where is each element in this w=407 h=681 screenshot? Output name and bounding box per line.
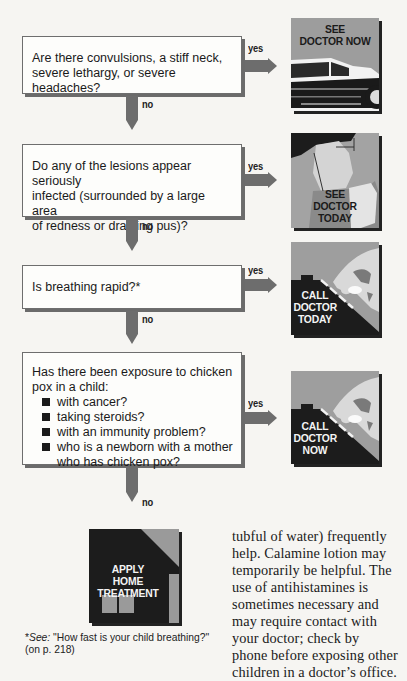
- outcome-3-label-line-3: TODAY: [293, 313, 336, 325]
- question-4-line-2: pox in a child:: [32, 380, 233, 395]
- body-text-column: tubful of water) frequently help. Calami…: [232, 528, 407, 681]
- question-2-line-1: Do any of the lesions appear seriously: [32, 159, 233, 189]
- question-box-1: Are there convulsions, a stiff neck, sev…: [22, 36, 242, 94]
- body-text-line: tubful of water) frequently: [232, 528, 407, 545]
- outcome-3-label-line-2: DOCTOR: [293, 301, 336, 313]
- bullet-4-line-2: who has chicken pox?: [57, 455, 233, 470]
- yes-label-4: yes: [248, 397, 263, 409]
- body-text-line: use of antihistamines is: [232, 579, 407, 596]
- question-box-3: Is breathing rapid?*: [22, 265, 242, 309]
- outcome-1-label-line-1: SEE: [295, 23, 374, 35]
- bullet-item: with an immunity problem?: [42, 425, 233, 440]
- question-4-bullet-list: with cancer? taking steroids? with an im…: [32, 395, 233, 470]
- body-text-line: may require contact with: [232, 613, 407, 630]
- outcome-apply-home-treatment: APPLY HOME TREATMENT: [89, 529, 179, 623]
- outcome-4-label-line-2: DOCTOR: [293, 432, 336, 444]
- outcome-2-label-line-1: SEE: [295, 188, 374, 200]
- final-label-line-2: HOME: [89, 575, 169, 587]
- outcome-1-label-line-2: DOCTOR NOW: [295, 35, 374, 47]
- question-box-4: Has there been exposure to chicken pox i…: [22, 352, 242, 465]
- body-text-line: children in a doctor’s office.: [232, 664, 407, 681]
- outcome-call-doctor-now: CALL DOCTOR NOW: [291, 371, 379, 464]
- footnote-see: See:: [29, 632, 50, 643]
- outcome-2-label-line-2: DOCTOR: [295, 200, 374, 212]
- outcome-call-doctor-today: CALL DOCTOR TODAY: [291, 242, 379, 335]
- outcome-4-label-line-1: CALL: [293, 420, 336, 432]
- outcome-2-label-line-3: TODAY: [295, 212, 374, 224]
- yes-label-1: yes: [248, 42, 263, 54]
- bullet-item: taking steroids?: [42, 410, 233, 425]
- question-box-2: Do any of the lesions appear seriously i…: [22, 144, 242, 217]
- bullet-item: who is a newborn with a mother who has c…: [42, 440, 233, 470]
- body-text-line: temporarily be helpful. The: [232, 562, 407, 579]
- question-2-line-2: infected (surrounded by a large area: [32, 189, 233, 219]
- question-1-line-2: severe lethargy, or severe headaches?: [32, 66, 233, 96]
- no-label-4: no: [142, 496, 153, 508]
- body-text-line: help. Calamine lotion may: [232, 545, 407, 562]
- body-text-line: sometimes necessary and: [232, 596, 407, 613]
- no-label-3: no: [142, 313, 153, 325]
- question-1-line-1: Are there convulsions, a stiff neck,: [32, 51, 233, 66]
- outcome-4-label-line-3: NOW: [293, 444, 336, 456]
- final-label-line-3: TREATMENT: [89, 587, 169, 599]
- footnote-text: "How fast is your child breathing?": [50, 632, 209, 643]
- outcome-see-doctor-now: SEE DOCTOR NOW: [291, 18, 379, 111]
- final-label-line-1: APPLY: [89, 563, 169, 575]
- yes-label-3: yes: [248, 264, 263, 276]
- outcome-see-doctor-today: SEE DOCTOR TODAY: [291, 133, 379, 228]
- question-3-line-1: Is breathing rapid?*: [32, 280, 233, 295]
- no-label-1: no: [142, 98, 153, 110]
- footnote: *See: "How fast is your child breathing?…: [25, 632, 209, 656]
- yes-label-2: yes: [248, 160, 263, 172]
- outcome-3-label-line-1: CALL: [293, 289, 336, 301]
- body-text-line: your doctor; check by: [232, 630, 407, 647]
- body-text-line: phone before exposing other: [232, 647, 407, 664]
- bullet-item: with cancer?: [42, 395, 233, 410]
- bullet-4-line-1: who is a newborn with a mother: [57, 440, 233, 455]
- no-label-2: no: [142, 220, 153, 232]
- question-4-line-1: Has there been exposure to chicken: [32, 365, 233, 380]
- footnote-page-ref: (on p. 218): [25, 644, 209, 656]
